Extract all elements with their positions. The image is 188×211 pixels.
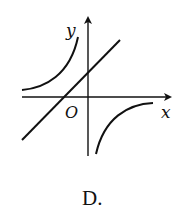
hyperbola-branch-upper-left	[22, 37, 78, 90]
origin-label: O	[65, 103, 78, 122]
option-caption: D.	[82, 186, 102, 210]
line-graph	[22, 40, 120, 140]
x-axis-label: x	[161, 102, 171, 122]
hyperbola-branch-lower-right	[96, 103, 153, 154]
y-axis-label: y	[65, 20, 76, 40]
function-graph: y O x D.	[0, 0, 188, 211]
